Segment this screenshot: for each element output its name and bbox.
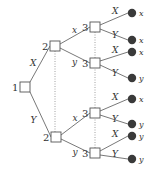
outcome-label: x [139,48,144,57]
terminal-action-label: X [111,92,119,102]
decision-node [90,108,100,118]
terminal-node [128,132,136,140]
player-label: 3 [82,108,88,119]
terminal-action-label: X [111,45,119,55]
outcome-label: x [139,95,144,104]
tree-labels: XYxyxyXxYxXxYyXxYyXyYy1223333 [12,6,144,164]
decision-node [50,41,60,51]
game-tree-svg: XYxyxyXxYxXxYyXxYyXyYy1223333 [0,0,152,175]
terminal-action-label: Y [112,68,119,78]
outcome-label: x [139,9,144,18]
edge-action-label: y [71,57,78,67]
player-label: 3 [82,148,88,159]
edge-action-label: X [29,58,37,68]
edge-action-label: y [72,147,79,157]
terminal-action-label: X [111,6,119,16]
outcome-label: y [138,155,144,164]
terminal-action-label: X [111,129,119,139]
game-tree-diagram: XYxyxyXxYxXxYyXxYyXyYy1223333 [0,0,152,175]
edge-action-label: x [72,25,77,35]
terminal-node [128,120,136,128]
player-label: 3 [82,22,88,33]
player-label: 3 [82,58,88,69]
player-label: 2 [42,41,48,52]
information-set-lines [55,32,95,148]
terminal-nodes [128,9,136,163]
terminal-node [128,9,136,17]
edge-action-label: Y [31,115,38,125]
decision-node [90,148,100,158]
outcome-label: y [138,74,144,83]
terminal-node [128,36,136,44]
terminal-node [128,95,136,103]
player-label: 1 [12,82,18,93]
terminal-action-label: Y [112,30,119,40]
decision-nodes [20,22,100,158]
decision-node [51,132,61,142]
decision-node [20,82,30,92]
terminal-node [128,48,136,56]
outcome-label: x [139,36,144,45]
outcome-label: y [138,132,144,141]
edge-action-label: x [73,113,78,123]
outcome-label: y [138,120,144,129]
decision-node [90,58,100,68]
terminal-node [128,74,136,82]
terminal-action-label: Y [112,114,119,124]
player-label: 2 [43,132,49,143]
terminal-node [128,155,136,163]
terminal-action-label: Y [112,149,119,159]
decision-node [90,22,100,32]
